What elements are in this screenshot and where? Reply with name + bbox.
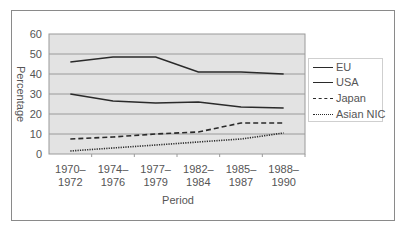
- dashed-line-swatch-icon: [313, 98, 333, 99]
- y-tick: 40: [30, 68, 42, 80]
- y-axis-ticks: 0 10 20 30 40 50 60: [30, 28, 42, 160]
- x-axis-title: Period: [162, 194, 194, 206]
- dotted-line-swatch-icon: [313, 114, 333, 115]
- legend-item-japan: Japan: [313, 91, 366, 105]
- x-axis-ticks: 1970–19721974–19761977–19791982–19841985…: [55, 154, 305, 188]
- solid-line-swatch-icon: [313, 82, 333, 83]
- y-tick: 20: [30, 108, 42, 120]
- x-tick: 1974–1976: [98, 163, 129, 188]
- x-tick: 1988–1990: [268, 163, 299, 188]
- y-tick: 50: [30, 48, 42, 60]
- x-tick: 1977–1979: [140, 163, 171, 188]
- legend-label: Japan: [336, 92, 366, 104]
- x-tick: 1982–1984: [183, 163, 214, 188]
- x-tick: 1970–1972: [55, 163, 86, 188]
- legend-item-asian-nic: Asian NIC: [313, 107, 386, 121]
- x-tick: 1985–1987: [226, 163, 257, 188]
- solid-line-swatch-icon: [313, 67, 333, 68]
- y-tick: 0: [36, 148, 42, 160]
- legend-item-eu: EU: [313, 60, 351, 74]
- legend: EU USA Japan Asian NIC: [308, 58, 383, 122]
- y-axis-title: Percentage: [15, 66, 27, 122]
- y-tick: 10: [30, 128, 42, 140]
- legend-label: Asian NIC: [336, 108, 386, 120]
- legend-label: USA: [336, 76, 359, 88]
- y-tick: 30: [30, 88, 42, 100]
- legend-item-usa: USA: [313, 75, 359, 89]
- legend-label: EU: [336, 61, 351, 73]
- y-tick: 60: [30, 28, 42, 40]
